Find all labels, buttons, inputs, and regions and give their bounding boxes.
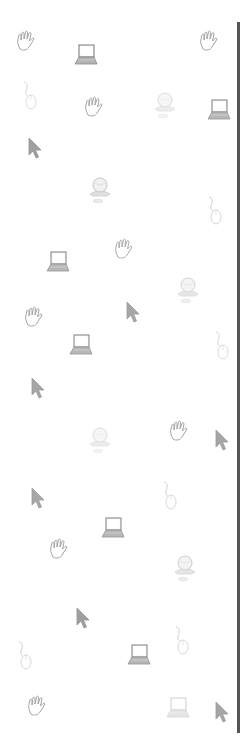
cursor-icon	[207, 425, 237, 455]
hand-icon	[80, 93, 110, 123]
cursor-icon	[207, 697, 237, 727]
cursor-icon	[23, 373, 53, 403]
laptop-icon	[70, 40, 100, 70]
cursor-icon	[23, 483, 53, 513]
mouse-icon	[15, 80, 45, 110]
hand-icon	[12, 27, 42, 57]
vertical-divider	[237, 22, 240, 733]
globe-computer-icon	[85, 175, 115, 205]
hand-icon	[110, 235, 140, 265]
cursor-icon	[68, 603, 98, 633]
laptop-icon	[203, 95, 233, 125]
hand-icon	[195, 27, 225, 57]
globe-computer-icon	[170, 553, 200, 583]
globe-computer-icon	[85, 425, 115, 455]
mouse-icon	[167, 625, 197, 655]
cursor-icon	[20, 133, 50, 163]
laptop-icon	[65, 330, 95, 360]
hand-icon	[45, 535, 75, 565]
hand-icon	[165, 417, 195, 447]
laptop-icon	[162, 693, 192, 723]
laptop-icon	[123, 640, 153, 670]
decorative-background-pattern	[0, 0, 250, 747]
mouse-icon	[200, 195, 230, 225]
globe-computer-icon	[173, 275, 203, 305]
mouse-icon	[207, 330, 237, 360]
laptop-icon	[42, 247, 72, 277]
globe-computer-icon	[150, 90, 180, 120]
mouse-icon	[10, 640, 40, 670]
hand-icon	[23, 692, 53, 722]
cursor-icon	[118, 297, 148, 327]
mouse-icon	[155, 480, 185, 510]
hand-icon	[20, 303, 50, 333]
laptop-icon	[97, 513, 127, 543]
